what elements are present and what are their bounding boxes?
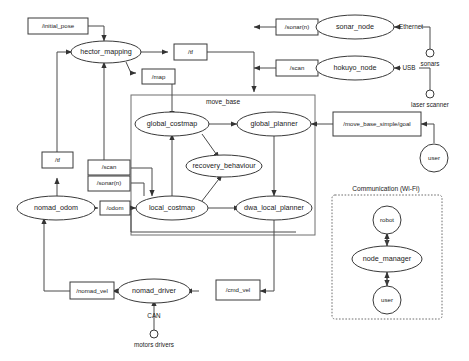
- topic-label: /nomad_vel: [76, 287, 108, 294]
- node-global-planner[interactable]: global_planner: [237, 112, 311, 136]
- hardware-port-icon: [150, 330, 158, 338]
- actor-user-wifi[interactable]: user: [373, 286, 401, 314]
- topic-label: /sonar(n): [285, 23, 309, 30]
- hardware-label: motors drivers: [134, 341, 174, 348]
- actor-label: robot: [380, 216, 394, 223]
- topic-scan-left[interactable]: /scan: [88, 160, 130, 175]
- node-nomad-odom[interactable]: nomad_odom: [17, 196, 95, 220]
- topic-label: /odom: [107, 204, 124, 211]
- node-nomad-driver[interactable]: nomad_driver: [118, 279, 190, 303]
- edge-hector-to-map: [126, 62, 136, 73]
- node-sonar-node[interactable]: sonar_node: [316, 15, 394, 39]
- topic-tf-left[interactable]: /tf: [42, 152, 73, 168]
- actor-label: user: [381, 296, 393, 303]
- topic-label: /cmd_vel: [226, 286, 250, 293]
- node-label: hector_mapping: [80, 47, 132, 56]
- node-label: recovery_behaviour: [192, 161, 256, 170]
- topic-odom[interactable]: /odom: [100, 201, 130, 215]
- topic-label: /scan: [290, 64, 305, 71]
- topic-sonar-n-left[interactable]: /sonar(n): [88, 176, 130, 191]
- edge-nomad-vel-to-nomad-odom: [44, 218, 72, 291]
- move-base-label: move_base: [206, 98, 240, 106]
- topic-map[interactable]: /map: [142, 69, 175, 84]
- communication-label: Communication (Wi-Fi): [352, 185, 419, 193]
- node-hokuyo-node[interactable]: hokuyo_node: [316, 56, 394, 80]
- topic-initial-pose[interactable]: /initial_pose: [28, 18, 88, 34]
- topic-sonar-n-top[interactable]: /sonar(n): [276, 19, 318, 35]
- topic-move-base-simple-goal[interactable]: /move_base_simple/goal: [333, 112, 421, 136]
- node-recovery-behaviour[interactable]: recovery_behaviour: [186, 155, 262, 177]
- node-dwa-local-planner[interactable]: dwa_local_planner: [236, 196, 312, 220]
- hardware-port-icon: [426, 49, 434, 57]
- edge-local-costmap-to-recovery: [202, 175, 222, 201]
- bus-label-ethernet: Ethernet: [399, 23, 423, 30]
- actor-user-goal[interactable]: user: [420, 144, 448, 172]
- node-global-costmap[interactable]: global_costmap: [135, 112, 209, 136]
- hardware-label: laser scanner: [411, 101, 449, 108]
- hardware-motors-drivers: motors drivers CAN: [134, 312, 174, 348]
- edge-sonars-bus: [421, 27, 430, 49]
- node-label: nomad_odom: [34, 203, 78, 212]
- node-local-costmap[interactable]: local_costmap: [136, 196, 208, 220]
- topic-label: /tf: [188, 48, 193, 55]
- hardware-sonars: sonars Ethernet: [399, 23, 439, 67]
- edge-global-costmap-to-recovery: [202, 134, 219, 158]
- node-label: hokuyo_node: [333, 63, 376, 72]
- hardware-laser-scanner: laser scanner USB: [403, 64, 449, 108]
- topic-nomad-vel[interactable]: /nomad_vel: [70, 282, 114, 299]
- topic-label: /initial_pose: [42, 22, 75, 29]
- edge-sonar-left-to-local-costmap: [131, 183, 144, 196]
- ros-node-graph: move_base Communication (Wi-Fi): [0, 0, 469, 361]
- topic-scan-top[interactable]: /scan: [276, 60, 318, 76]
- edge-tf-left-to-hector: [57, 52, 72, 160]
- node-label: local_costmap: [149, 203, 195, 212]
- node-node-manager[interactable]: node_manager: [352, 246, 422, 272]
- edge-user-to-goal: [421, 124, 434, 143]
- node-label: global_planner: [250, 119, 298, 128]
- topic-cmd-vel[interactable]: /cmd_vel: [216, 280, 260, 300]
- topic-label: /sonar(n): [97, 179, 121, 186]
- node-label: dwa_local_planner: [244, 203, 305, 212]
- edge-laser-bus: [419, 68, 430, 90]
- bus-label-can: CAN: [147, 312, 161, 319]
- topic-label: /move_base_simple/goal: [343, 120, 410, 127]
- hardware-label: sonars: [421, 60, 440, 67]
- actor-robot-wifi[interactable]: robot: [373, 206, 401, 234]
- topic-label: /map: [152, 73, 166, 80]
- node-hector-mapping[interactable]: hector_mapping: [71, 41, 141, 63]
- node-label: node_manager: [363, 254, 412, 263]
- topic-label: /scan: [102, 163, 117, 170]
- node-label: global_costmap: [147, 119, 197, 128]
- edge-initial-pose-to-hector: [88, 26, 104, 41]
- node-label: nomad_driver: [132, 286, 177, 295]
- edge-dwa-to-cmd-vel: [260, 219, 274, 291]
- bus-label-usb: USB: [403, 64, 416, 71]
- edge-tf-to-move-base: [207, 52, 254, 92]
- node-label: sonar_node: [336, 22, 374, 31]
- actor-label: user: [428, 154, 440, 161]
- hardware-port-icon: [426, 90, 434, 98]
- topic-tf-top[interactable]: /tf: [174, 44, 207, 60]
- topic-label: /tf: [55, 156, 60, 163]
- edge-scan-left-to-local-costmap: [131, 168, 152, 196]
